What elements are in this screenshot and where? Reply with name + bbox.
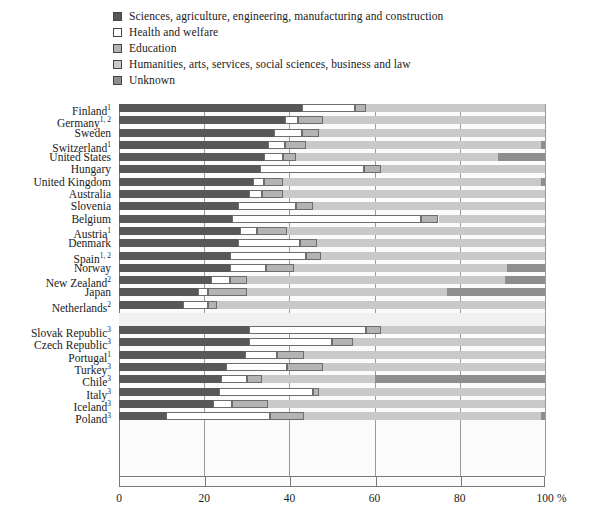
table-row bbox=[119, 252, 545, 260]
bar-segment-health bbox=[198, 288, 209, 296]
bar-segment-humanities bbox=[366, 104, 545, 112]
bar-segment-sciences bbox=[119, 202, 238, 210]
x-axis-tick-label-40: 40 bbox=[284, 492, 296, 504]
table-row bbox=[119, 215, 545, 223]
bar-segment-health bbox=[240, 227, 257, 235]
bar-segment-sciences bbox=[119, 227, 240, 235]
chart-legend: Sciences, agriculture, engineering, manu… bbox=[113, 8, 443, 88]
bar-segment-health bbox=[166, 412, 270, 420]
bar-segment-humanities bbox=[217, 301, 545, 309]
bar-segment-health bbox=[183, 301, 209, 309]
table-row bbox=[119, 178, 545, 186]
bar-segment-health bbox=[260, 165, 364, 173]
table-row bbox=[119, 412, 545, 420]
y-axis-label-germany: Germany1, 2 bbox=[0, 116, 115, 124]
stacked-bar-chart: Sciences, agriculture, engineering, manu… bbox=[0, 0, 592, 512]
y-axis-label-austria: Austria1 bbox=[0, 227, 115, 235]
bar-segment-humanities bbox=[304, 351, 545, 359]
legend-item-unknown: Unknown bbox=[113, 72, 443, 88]
bar-segment-education bbox=[283, 153, 296, 161]
bar-segment-humanities bbox=[268, 400, 545, 408]
legend-label-education: Education bbox=[129, 42, 177, 54]
y-axis-label-japan: Japan bbox=[0, 288, 115, 296]
bar-segment-humanities bbox=[283, 178, 541, 186]
x-axis bbox=[119, 476, 545, 487]
legend-item-health: Health and welfare bbox=[113, 24, 443, 40]
bar-segment-health bbox=[230, 252, 307, 260]
y-axis-label-hungary: Hungary bbox=[0, 165, 115, 173]
plot-area bbox=[119, 104, 545, 476]
bar-segment-sciences bbox=[119, 326, 249, 334]
bar-segment-education bbox=[355, 104, 366, 112]
y-axis-label-denmark: Denmark bbox=[0, 239, 115, 247]
bar-segment-sciences bbox=[119, 375, 221, 383]
table-row bbox=[119, 288, 545, 296]
y-axis-label-spain: Spain1, 2 bbox=[0, 252, 115, 260]
bar-segment-sciences bbox=[119, 104, 302, 112]
bar-segment-humanities bbox=[323, 116, 545, 124]
bar-segment-sciences bbox=[119, 252, 230, 260]
table-row bbox=[119, 351, 545, 359]
table-row bbox=[119, 326, 545, 334]
bar-segment-unknown bbox=[505, 276, 545, 284]
legend-label-health: Health and welfare bbox=[129, 26, 218, 38]
y-axis-label-united-kingdom: United Kingdom bbox=[0, 178, 115, 186]
bar-segment-education bbox=[285, 141, 306, 149]
bar-segment-education bbox=[287, 363, 323, 371]
bar-segment-humanities bbox=[439, 215, 546, 223]
bar-segment-sciences bbox=[119, 178, 253, 186]
x-axis-tick-label-20: 20 bbox=[198, 492, 210, 504]
y-axis-label-chile: Chile3 bbox=[0, 375, 115, 383]
bar-segment-humanities bbox=[381, 165, 545, 173]
bar-segment-health bbox=[249, 326, 366, 334]
x-axis-tick-20 bbox=[205, 477, 206, 486]
bar-rows bbox=[119, 104, 545, 424]
y-axis-label-iceland: Iceland3 bbox=[0, 400, 115, 408]
bar-segment-unknown bbox=[498, 153, 545, 161]
x-axis-tick-label-80: 80 bbox=[454, 492, 466, 504]
bar-segment-education bbox=[264, 178, 283, 186]
bar-segment-health bbox=[238, 202, 296, 210]
y-axis-label-sweden: Sweden bbox=[0, 129, 115, 137]
bar-segment-sciences bbox=[119, 153, 264, 161]
bar-segment-humanities bbox=[287, 227, 545, 235]
bar-segment-sciences bbox=[119, 400, 213, 408]
bar-segment-humanities bbox=[247, 276, 505, 284]
bar-segment-education bbox=[298, 116, 324, 124]
y-axis-label-norway: Norway bbox=[0, 264, 115, 272]
gridline-100 bbox=[545, 104, 546, 476]
table-row bbox=[119, 400, 545, 408]
bar-segment-humanities bbox=[317, 239, 545, 247]
legend-swatch-sciences bbox=[113, 12, 122, 21]
bar-segment-sciences bbox=[119, 239, 238, 247]
bar-segment-education bbox=[366, 326, 381, 334]
table-row bbox=[119, 363, 545, 371]
row-spacer bbox=[119, 420, 545, 424]
bar-segment-sciences bbox=[119, 264, 230, 272]
y-axis-label-netherlands: Netherlands2 bbox=[0, 301, 115, 309]
bar-segment-unknown bbox=[507, 264, 545, 272]
bar-segment-education bbox=[306, 252, 321, 260]
bar-segment-education bbox=[302, 129, 319, 137]
x-axis-tick-60 bbox=[376, 477, 377, 486]
bar-segment-health bbox=[226, 363, 288, 371]
bar-segment-sciences bbox=[119, 288, 198, 296]
y-axis-label-switzerland: Switzerland1 bbox=[0, 141, 115, 149]
bar-segment-health bbox=[274, 129, 302, 137]
bar-segment-sciences bbox=[119, 116, 285, 124]
bar-segment-education bbox=[247, 375, 262, 383]
bar-segment-sciences bbox=[119, 351, 245, 359]
bar-segment-sciences bbox=[119, 301, 183, 309]
legend-swatch-health bbox=[113, 28, 122, 37]
bar-segment-humanities bbox=[296, 153, 498, 161]
bar-segment-unknown bbox=[541, 141, 545, 149]
x-axis-tick-labels: 020406080100% bbox=[0, 492, 592, 508]
legend-item-sciences: Sciences, agriculture, engineering, manu… bbox=[113, 8, 443, 24]
table-row bbox=[119, 104, 545, 112]
table-row bbox=[119, 264, 545, 272]
bar-segment-education bbox=[364, 165, 381, 173]
bar-segment-education bbox=[208, 301, 217, 309]
bar-segment-education bbox=[208, 288, 246, 296]
bar-segment-education bbox=[230, 276, 247, 284]
legend-label-humanities: Humanities, arts, services, social scien… bbox=[129, 58, 411, 70]
